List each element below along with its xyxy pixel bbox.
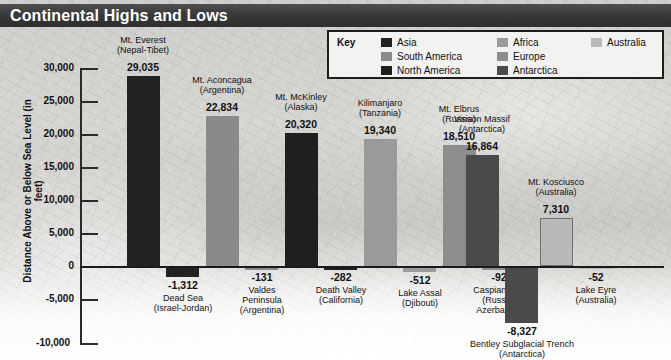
- bar-name2-valdes-peninsula: Peninsula: [219, 295, 305, 305]
- y-tick-20000: [80, 134, 98, 136]
- y-ticklabel-20000: 20,000: [14, 128, 74, 139]
- bar-name-valdes-peninsula: Valdes: [219, 285, 305, 295]
- y-tick-10000: [80, 200, 98, 202]
- bar-valdes-peninsula: [245, 268, 278, 270]
- y-axis-line: [80, 69, 82, 344]
- bar-lake-assal: [403, 268, 436, 272]
- y-tick-25000: [80, 101, 98, 103]
- y-ticklabel-15000: 15,000: [14, 161, 74, 172]
- y-tick-15000: [80, 167, 98, 169]
- bar-place-bentley-subglacial-trench: (Antarctica): [450, 349, 594, 359]
- bar-lake-eyre: [579, 268, 612, 269]
- bar-place-death-valley: (California): [294, 295, 388, 305]
- bar-place-mt-everest: (Nepal-Tibet): [93, 45, 193, 55]
- bar-value-lake-eyre: -52: [553, 272, 639, 282]
- bar-place-vinson-massif: (Antarctica): [432, 124, 532, 134]
- bar-place-mt-kosciusco: (Australia): [506, 187, 606, 197]
- bar-value-dead-sea: -1,312: [140, 280, 226, 290]
- bar-bentley-subglacial-trench: [505, 268, 538, 323]
- bar-value-valdes-peninsula: -131: [219, 272, 305, 282]
- y-tick-minus10000: [80, 343, 98, 345]
- chart-page: Continental Highs and Lows Key Asia Sout…: [0, 0, 671, 360]
- y-ticklabel-minus10000: -10,000: [10, 337, 70, 348]
- bar-value-bentley-subglacial-trench: -8,327: [479, 326, 565, 336]
- y-ticklabel-25000: 25,000: [14, 95, 74, 106]
- y-ticklabel-5000: 5,000: [14, 227, 74, 238]
- y-tick-minus5000: [80, 299, 98, 301]
- bar-name-mt-kosciusco: Mt. Kosciusco: [506, 177, 606, 187]
- bar-name-mt-aconcagua: Mt. Aconcagua: [172, 75, 272, 85]
- bar-place-lake-assal: (Djibouti): [377, 298, 463, 308]
- plot-area: Distance Above or Below Sea Level (in fe…: [0, 0, 671, 360]
- bar-value-vinson-massif: 16,864: [432, 140, 532, 152]
- bar-name-mt-everest: Mt. Everest: [93, 35, 193, 45]
- y-ticklabel-30000: 30,000: [14, 62, 74, 73]
- y-ticklabel-minus5000: -5,000: [14, 293, 74, 304]
- bar-value-death-valley: -282: [298, 272, 384, 282]
- bar-value-mt-everest: 29,035: [93, 61, 193, 73]
- bar-mt-aconcagua: [206, 116, 239, 266]
- bar-name-lake-assal: Lake Assal: [377, 288, 463, 298]
- y-ticklabel-0: 0: [14, 260, 74, 271]
- y-tick-5000: [80, 233, 98, 235]
- bar-vinson-massif: [466, 155, 499, 266]
- bar-value-mt-kosciusco: 7,310: [506, 203, 606, 215]
- bar-death-valley: [324, 268, 357, 270]
- bar-name-vinson-massif: Vinson Massif: [432, 114, 532, 124]
- bar-name-mt-elbrus: Mt. Elbrus: [409, 104, 509, 114]
- bar-place-valdes-peninsula: (Argentina): [219, 305, 305, 315]
- bar-dead-sea: [166, 268, 199, 277]
- y-ticklabel-10000: 10,000: [14, 194, 74, 205]
- bar-name-dead-sea: Dead Sea: [140, 293, 226, 303]
- bar-place-dead-sea: (Israel-Jordan): [134, 303, 232, 313]
- bar-value-lake-assal: -512: [377, 275, 463, 285]
- bar-mt-everest: [127, 76, 160, 266]
- bar-name-lake-eyre: Lake Eyre: [553, 285, 639, 295]
- bar-mt-mckinley: [285, 133, 318, 266]
- bar-place-lake-eyre: (Australia): [553, 295, 639, 305]
- bar-mt-kosciusco: [540, 218, 573, 266]
- bar-name-bentley-subglacial-trench: Bentley Subglacial Trench: [450, 339, 594, 349]
- bar-kilimanjaro: [364, 139, 397, 266]
- bar-name-death-valley: Death Valley: [294, 285, 388, 295]
